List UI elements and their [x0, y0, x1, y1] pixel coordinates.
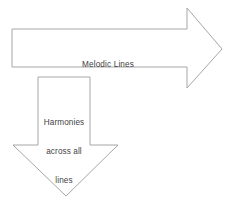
down-arrow-label-line-3: lines [30, 176, 98, 186]
down-arrow-label-line-1: Harmonies [30, 118, 98, 128]
right-arrow-label: Melodic Lines [12, 41, 204, 89]
diagram-canvas: Melodic Lines Harmonies across all lines [0, 0, 235, 209]
down-arrow-label: Harmonies across all lines [30, 99, 98, 205]
right-arrow-label-line-1: Melodic Lines [12, 60, 204, 70]
down-arrow-label-line-2: across all [30, 147, 98, 157]
